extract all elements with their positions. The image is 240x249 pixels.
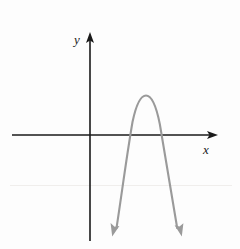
parabola-curve (111, 96, 184, 237)
curve-left-arrowhead-icon (111, 223, 120, 237)
figure-canvas: y x (0, 0, 240, 249)
y-axis-label: y (72, 32, 80, 47)
parabola-path (117, 96, 178, 229)
y-axis (86, 32, 94, 241)
x-axis-label: x (202, 142, 209, 157)
x-axis (12, 131, 218, 139)
parabola-plot: y x (0, 0, 240, 249)
